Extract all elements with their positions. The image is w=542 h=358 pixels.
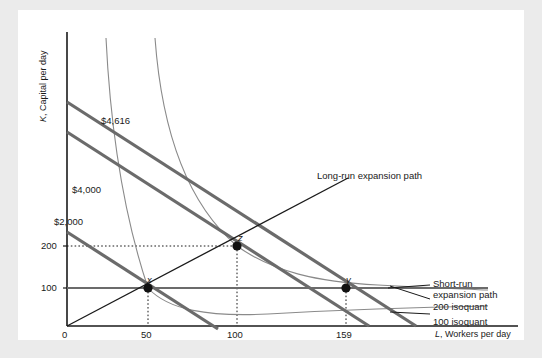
y-axis-title-symbol: K bbox=[38, 116, 48, 122]
point-label-y: y bbox=[346, 274, 351, 285]
x-axis-title-text: , Workers per day bbox=[440, 329, 511, 339]
isocost-label-4000: $4,000 bbox=[72, 184, 101, 195]
y-axis-title: K, Capital per day bbox=[38, 50, 49, 122]
x-tick-label-100: 100 bbox=[227, 329, 243, 340]
isoquant-200-label: 200 isoquant bbox=[433, 301, 487, 312]
y-tick-label-100: 100 bbox=[41, 282, 57, 293]
x-tick-label-50: 50 bbox=[141, 329, 152, 340]
origin-label: 0 bbox=[62, 329, 67, 340]
isoquant-100-label: 100 isoquant bbox=[433, 316, 487, 327]
isocost-4616-line bbox=[67, 102, 416, 326]
short-run-expansion-path-label-line1: Short-run bbox=[433, 278, 473, 289]
isocost-4000-line bbox=[67, 132, 369, 326]
isocost-label-2000: $2,000 bbox=[54, 216, 83, 227]
y-axis-title-text: , Capital per day bbox=[38, 50, 48, 116]
long-run-expansion-path-line bbox=[67, 178, 348, 326]
x-axis-title: L, Workers per day bbox=[435, 329, 511, 340]
isocost-label-4616: $4,616 bbox=[101, 115, 130, 126]
point-label-z: z bbox=[238, 232, 243, 243]
short-run-expansion-path-label-line2: expansion path bbox=[433, 289, 497, 300]
isoquant-200-curve bbox=[155, 38, 488, 290]
y-tick-label-200: 200 bbox=[41, 240, 57, 251]
point-label-x: x bbox=[147, 274, 152, 285]
x-tick-label-159: 159 bbox=[336, 329, 352, 340]
figure-card: K, Capital per day L, Workers per day 0 … bbox=[18, 10, 524, 340]
long-run-expansion-path-label: Long-run expansion path bbox=[317, 170, 422, 181]
